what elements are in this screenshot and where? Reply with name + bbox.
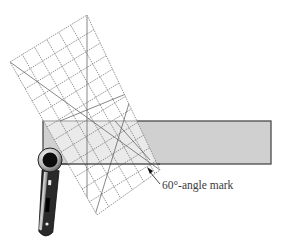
blade-hub <box>43 153 58 168</box>
callout-label: 60°-angle mark <box>162 179 233 191</box>
figure: 60°-angle mark <box>0 0 284 243</box>
handle-hole <box>45 222 48 225</box>
rotary-cutter <box>38 148 62 237</box>
ruler <box>10 15 166 215</box>
illustration-svg <box>0 0 284 243</box>
handle-lock <box>48 180 51 185</box>
